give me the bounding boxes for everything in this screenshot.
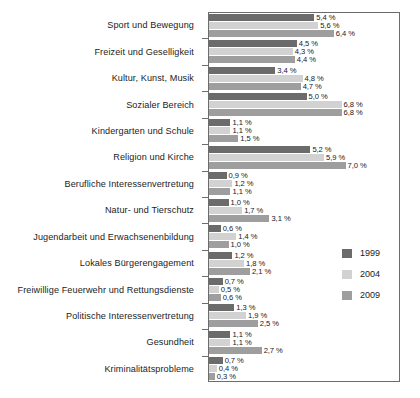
bar-1999 [209, 357, 223, 364]
bar-2004 [209, 207, 242, 214]
legend-label: 2009 [360, 290, 380, 301]
bar-group: 5,2 %5,9 %7,0 % [209, 146, 399, 170]
bar-row: 1,2 % [209, 180, 399, 187]
bar-2009 [209, 373, 215, 380]
category-label: Kultur, Kunst, Musik [0, 73, 194, 83]
bar-row: 1,1 % [209, 119, 399, 126]
bar-1999 [209, 67, 275, 74]
legend-swatch-icon [342, 270, 352, 279]
bar-value-label: 0,3 % [217, 372, 236, 381]
bar-row: 1,4 % [209, 233, 399, 240]
bar-row: 4,7 % [209, 83, 399, 90]
bar-2009 [209, 320, 258, 327]
bar-value-label: 1,7 % [244, 206, 263, 215]
bar-2004 [209, 75, 303, 82]
bar-row: 1,9 % [209, 312, 399, 319]
bar-2009 [209, 162, 346, 169]
category-label: Gesundheit [0, 337, 194, 347]
legend-item-2004[interactable]: 2004 [342, 269, 398, 280]
axis-tick [202, 356, 209, 357]
chart-legend: 199920042009 [342, 248, 398, 311]
bar-2009 [209, 109, 342, 116]
category-label: Kindergarten und Schule [0, 126, 194, 136]
bar-row: 0,7 % [209, 357, 399, 364]
category-label: Sozialer Bereich [0, 100, 194, 110]
bar-2009 [209, 294, 221, 301]
bar-2004 [209, 154, 324, 161]
bar-row: 4,8 % [209, 75, 399, 82]
bar-2009 [209, 56, 295, 63]
category-label: Kriminalitätsprobleme [0, 364, 194, 374]
legend-swatch-icon [342, 291, 352, 300]
bar-group: 0,6 %1,4 %1,0 % [209, 225, 399, 249]
axis-tick [202, 223, 209, 224]
bar-row: 5,9 % [209, 154, 399, 161]
legend-item-1999[interactable]: 1999 [342, 248, 398, 259]
axis-tick [202, 197, 209, 198]
category-label: Freizeit und Geselligkeit [0, 47, 194, 57]
category-label: Lokales Bürgerengagement [0, 258, 194, 268]
bar-group: 1,0 %1,7 %3,1 % [209, 199, 399, 223]
bar-2004 [209, 312, 246, 319]
bar-row: 0,9 % [209, 172, 399, 179]
bar-2009 [209, 83, 301, 90]
bar-2009 [209, 241, 229, 248]
bar-value-label: 0,6 % [223, 293, 242, 302]
bar-2004 [209, 22, 318, 29]
bar-1999 [209, 278, 223, 285]
bar-2004 [209, 48, 293, 55]
axis-tick [202, 303, 209, 304]
axis-tick [202, 329, 209, 330]
bar-group: 5,0 %6,8 %6,8 % [209, 93, 399, 117]
bar-value-label: 2,7 % [264, 346, 283, 355]
bar-row: 6,4 % [209, 30, 399, 37]
bar-row: 1,5 % [209, 135, 399, 142]
bar-value-label: 2,5 % [260, 319, 279, 328]
bar-row: 4,5 % [209, 40, 399, 47]
bar-2009 [209, 135, 238, 142]
category-label-column: Sport und BewegungFreizeit und Geselligk… [0, 12, 202, 382]
bar-1999 [209, 40, 297, 47]
bar-value-label: 1,5 % [240, 134, 259, 143]
bar-row: 1,7 % [209, 207, 399, 214]
bar-value-label: 1,0 % [231, 240, 250, 249]
bar-value-label: 4,4 % [297, 55, 316, 64]
bar-1999 [209, 252, 232, 259]
bar-2004 [209, 127, 230, 134]
bar-1999 [209, 331, 230, 338]
bar-value-label: 1,1 % [232, 187, 251, 196]
bar-row: 5,6 % [209, 22, 399, 29]
bar-row: 1,1 % [209, 188, 399, 195]
legend-label: 2004 [360, 269, 380, 280]
bar-2009 [209, 268, 250, 275]
bar-value-label: 6,4 % [336, 29, 355, 38]
bar-2009 [209, 188, 230, 195]
bar-group: 3,4 %4,8 %4,7 % [209, 67, 399, 91]
bar-row: 1,1 % [209, 331, 399, 338]
bar-row: 0,3 % [209, 373, 399, 380]
bar-value-label: 7,0 % [348, 161, 367, 170]
bar-1999 [209, 225, 221, 232]
axis-tick [202, 171, 209, 172]
bar-2009 [209, 347, 262, 354]
bar-2004 [209, 180, 232, 187]
bar-1999 [209, 172, 227, 179]
bar-2004 [209, 233, 236, 240]
bar-2004 [209, 365, 217, 372]
bar-1999 [209, 199, 229, 206]
axis-tick [202, 144, 209, 145]
bar-row: 0,4 % [209, 365, 399, 372]
legend-label: 1999 [360, 248, 380, 259]
bar-value-label: 5,9 % [326, 153, 345, 162]
bar-1999 [209, 119, 230, 126]
axis-tick [202, 118, 209, 119]
category-label: Religion und Kirche [0, 152, 194, 162]
bar-2004 [209, 101, 342, 108]
bar-1999 [209, 146, 310, 153]
legend-item-2009[interactable]: 2009 [342, 290, 398, 301]
bar-1999 [209, 14, 314, 21]
bar-row: 5,4 % [209, 14, 399, 21]
bar-2004 [209, 339, 230, 346]
bar-row: 5,0 % [209, 93, 399, 100]
bar-row: 6,8 % [209, 109, 399, 116]
